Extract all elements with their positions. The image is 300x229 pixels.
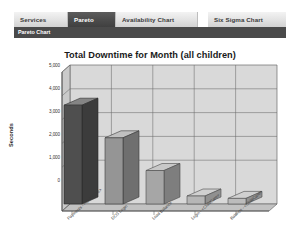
bar-dcg-login[interactable]: [105, 131, 139, 204]
tab-pareto-label: Pareto: [74, 16, 94, 23]
secondary-tab-bar: Pareto Chart: [14, 27, 286, 38]
chart-panel: Total Downtime for Month (all children) …: [0, 40, 300, 229]
tab-six-sigma-chart-label: Six Sigma Chart: [214, 16, 263, 23]
tab-services-label: Services: [20, 16, 46, 23]
bar-payments-childcare[interactable]: [64, 98, 98, 204]
plot-floor: [62, 204, 277, 211]
bar-load-balance[interactable]: [146, 164, 180, 205]
plot-area-svg: [0, 40, 300, 229]
tab-six-sigma-chart[interactable]: Six Sigma Chart: [208, 12, 286, 27]
tab-availability-chart[interactable]: Availability Chart: [116, 12, 198, 27]
pareto-bar-chart: Seconds 5,000 4,000 3,000 2,000 1,000 0: [0, 40, 300, 229]
subtab-pareto-chart[interactable]: Pareto Chart: [18, 27, 50, 38]
x-axis-ticks: [72, 211, 236, 215]
tab-pareto[interactable]: Pareto: [68, 12, 116, 27]
subtab-pareto-chart-label: Pareto Chart: [18, 29, 50, 35]
tab-availability-chart-label: Availability Chart: [122, 16, 174, 23]
primary-tab-bar: Services Pareto Availability Chart Six S…: [0, 12, 300, 27]
tab-services[interactable]: Services: [14, 12, 68, 27]
